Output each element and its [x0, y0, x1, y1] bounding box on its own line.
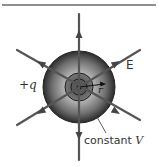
field-label: E — [126, 59, 134, 71]
equipotential-label-var: V — [135, 134, 143, 147]
electric-field-diagram: +q E r constant V — [0, 0, 159, 167]
equipotential-label: constant V — [84, 135, 143, 146]
equipotential-leader-line — [97, 117, 106, 133]
charge-label: +q — [19, 79, 37, 91]
arrow-up-icon — [76, 30, 83, 38]
radius-label: r — [98, 85, 103, 95]
equipotential-label-prefix: constant — [84, 134, 135, 147]
arrow-upper-left-icon — [37, 61, 46, 69]
arrow-down-icon — [76, 132, 83, 140]
